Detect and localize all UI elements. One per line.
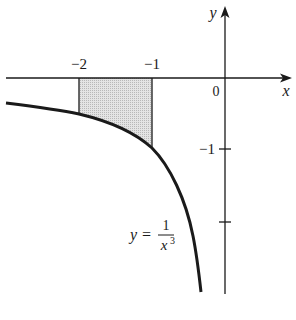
y-tick-label-minus-1: −1 <box>199 141 215 157</box>
x-tick-label-minus-1: −1 <box>144 56 160 72</box>
function-label-numerator: 1 <box>163 218 170 233</box>
function-label-denominator: x <box>160 237 168 253</box>
origin-label: 0 <box>213 84 220 99</box>
x-tick-label-minus-2: −2 <box>71 56 87 72</box>
function-graph: −2 −1 0 −1 x y y = 1 x 3 <box>0 0 296 320</box>
function-label: y = 1 x 3 <box>128 218 175 253</box>
function-label-lhs: y = <box>128 226 152 244</box>
y-axis-label: y <box>207 4 217 22</box>
curve-y-equals-1-over-x-cubed <box>6 103 201 292</box>
shaded-area <box>79 78 152 148</box>
x-axis-label: x <box>281 82 289 99</box>
function-label-exponent: 3 <box>170 235 175 246</box>
